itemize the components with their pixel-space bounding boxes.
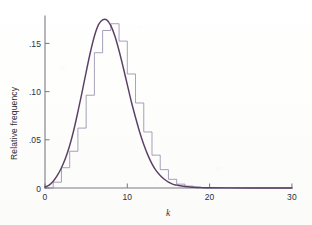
relative-frequency-chart: Relative frequency 0 .05 .10 .15 0 10 20… — [0, 0, 312, 225]
y-axis-ticks — [45, 43, 50, 188]
x-tick-label-30: 30 — [287, 192, 297, 202]
x-tick-label-20: 20 — [205, 192, 215, 202]
figure-container: Relative frequency 0 .05 .10 .15 0 10 20… — [0, 0, 312, 225]
histogram-steps — [45, 24, 292, 188]
y-axis-label: Relative frequency — [9, 86, 19, 160]
y-tick-label-010: .10 — [29, 87, 41, 97]
x-axis-label: k — [166, 208, 171, 218]
y-tick-label-005: .05 — [29, 135, 41, 145]
y-tick-label-0: 0 — [36, 184, 41, 194]
x-tick-label-0: 0 — [43, 192, 48, 202]
y-tick-label-015: .15 — [29, 39, 41, 49]
fitted-curve — [45, 19, 292, 188]
x-tick-label-10: 10 — [122, 192, 132, 202]
